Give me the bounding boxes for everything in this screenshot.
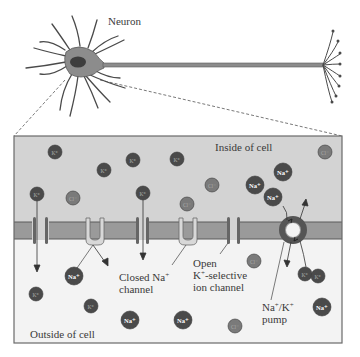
potassium-ion: K⁺ bbox=[298, 267, 312, 281]
potassium-ion: K⁺ bbox=[29, 287, 43, 301]
potassium-ion: K⁺ bbox=[311, 269, 325, 283]
channel-wall bbox=[33, 217, 36, 244]
svg-text:Cl⁻: Cl⁻ bbox=[321, 150, 329, 156]
potassium-ion: K⁺ bbox=[97, 163, 111, 177]
axon bbox=[103, 63, 323, 67]
pump-word: pump bbox=[262, 313, 287, 325]
closed-na-sup: + bbox=[165, 271, 169, 279]
potassium-ion: K⁺ bbox=[136, 186, 150, 200]
svg-text:Na⁺: Na⁺ bbox=[249, 182, 261, 189]
svg-text:K⁺: K⁺ bbox=[140, 191, 147, 197]
svg-text:Cl⁻: Cl⁻ bbox=[231, 324, 239, 330]
open-k-k: K bbox=[193, 269, 201, 281]
neuron-membrane-diagram: K⁺K⁺K⁺K⁺K⁺Cl⁻K⁺Cl⁻Cl⁻Cl⁻Na⁺Na⁺Na⁺Na⁺K⁺K⁺… bbox=[0, 0, 360, 357]
svg-text:K⁺: K⁺ bbox=[315, 274, 322, 280]
outside-of-cell-label: Outside of cell bbox=[30, 328, 95, 340]
svg-text:Na⁺: Na⁺ bbox=[267, 194, 279, 201]
svg-text:Cl⁻: Cl⁻ bbox=[183, 202, 191, 208]
chloride-ion: Cl⁻ bbox=[66, 191, 80, 205]
sodium-ion: Na⁺ bbox=[246, 176, 264, 194]
potassium-ion: K⁺ bbox=[30, 187, 44, 201]
chloride-ion: Cl⁻ bbox=[247, 254, 261, 268]
zoom-indicator-lines bbox=[14, 80, 342, 136]
nucleus bbox=[70, 57, 86, 68]
closed-na-channel-label: Closed Na+ channel bbox=[119, 271, 169, 295]
sodium-ion: Na⁺ bbox=[313, 298, 331, 316]
chloride-ion: Cl⁻ bbox=[180, 197, 194, 211]
na-k-pump-label: Na+/K+ pump bbox=[262, 301, 294, 325]
sodium-ion: Na⁺ bbox=[121, 311, 139, 329]
potassium-ion: K⁺ bbox=[48, 145, 62, 159]
sodium-ion: Na⁺ bbox=[274, 163, 292, 181]
inside-of-cell-label: Inside of cell bbox=[215, 141, 272, 153]
svg-text:K⁺: K⁺ bbox=[88, 304, 95, 310]
chloride-ion: Cl⁻ bbox=[228, 319, 242, 333]
open-k-selective: -selective bbox=[205, 269, 247, 281]
axon-terminals bbox=[323, 32, 340, 102]
svg-text:Cl⁻: Cl⁻ bbox=[69, 196, 77, 202]
svg-text:Na⁺: Na⁺ bbox=[68, 273, 80, 280]
pump-sup2: + bbox=[290, 301, 294, 309]
sodium-ion: Na⁺ bbox=[174, 311, 192, 329]
svg-text:Na⁺: Na⁺ bbox=[177, 317, 189, 324]
neuron-label: Neuron bbox=[108, 15, 141, 27]
svg-text:K⁺: K⁺ bbox=[34, 192, 41, 198]
potassium-ion: K⁺ bbox=[170, 152, 184, 166]
svg-text:Na⁺: Na⁺ bbox=[316, 304, 328, 311]
open-k-channel-label: Open K+-selective ion channel bbox=[193, 257, 247, 293]
svg-text:K⁺: K⁺ bbox=[33, 292, 40, 298]
svg-text:Na⁺: Na⁺ bbox=[277, 169, 289, 176]
closed-na-line2: channel bbox=[119, 283, 153, 295]
potassium-ion: K⁺ bbox=[126, 153, 140, 167]
svg-text:K⁺: K⁺ bbox=[130, 158, 137, 164]
potassium-ion: K⁺ bbox=[84, 299, 98, 313]
sodium-ion: Na⁺ bbox=[65, 267, 83, 285]
svg-text:K⁺: K⁺ bbox=[302, 272, 309, 278]
neuron-illustration bbox=[26, 16, 342, 116]
open-k-line3: ion channel bbox=[193, 281, 244, 293]
chloride-ion: Cl⁻ bbox=[205, 178, 219, 192]
sodium-ion: Na⁺ bbox=[264, 188, 282, 206]
closed-na-text: Closed Na bbox=[119, 271, 165, 283]
pump-k: /K bbox=[279, 301, 290, 313]
svg-text:Cl⁻: Cl⁻ bbox=[250, 259, 258, 265]
pump-na: Na bbox=[262, 301, 275, 313]
inside-region bbox=[14, 136, 342, 224]
chloride-ion: Cl⁻ bbox=[318, 145, 332, 159]
svg-text:Na⁺: Na⁺ bbox=[124, 317, 136, 324]
svg-text:K⁺: K⁺ bbox=[52, 150, 59, 156]
open-k-line1: Open bbox=[193, 257, 217, 269]
svg-text:Cl⁻: Cl⁻ bbox=[208, 183, 216, 189]
svg-text:K⁺: K⁺ bbox=[174, 157, 181, 163]
svg-text:K⁺: K⁺ bbox=[101, 168, 108, 174]
